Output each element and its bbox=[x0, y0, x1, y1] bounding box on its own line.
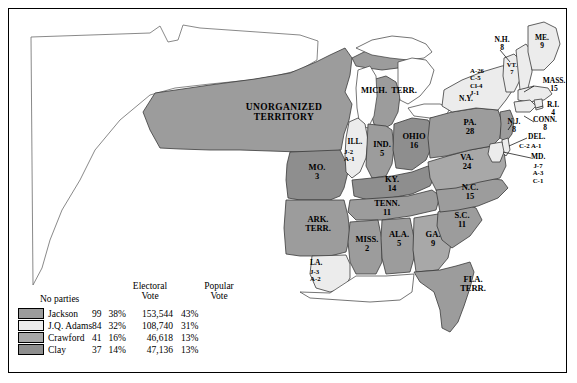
election-map-figure: UNORGANIZED TERRITORY MICH. TERR. MO. 3 … bbox=[0, 0, 577, 383]
figure-border bbox=[8, 8, 567, 373]
